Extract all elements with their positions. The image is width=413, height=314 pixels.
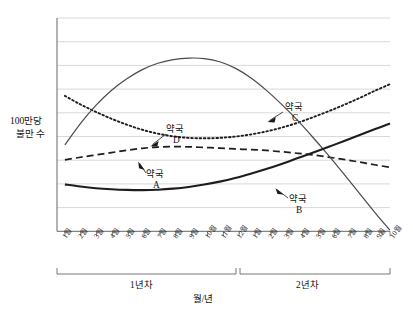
annotation-pharmacy-b-line1: 약국 <box>289 193 307 204</box>
chart-container: 1월 2월 3월 4월 5월 6월 7월 8월 9월 10월 11월 12월 1… <box>0 0 413 314</box>
y-axis-label-line2: 불만 수 <box>16 128 45 139</box>
annotation-pharmacy-c-line1: 약국 <box>285 101 303 112</box>
annotation-pharmacy-d-line2: D <box>173 135 180 145</box>
bracket-year-1 <box>57 268 236 274</box>
annotation-pharmacy-c-line2: C <box>292 113 298 123</box>
x-tick-label: 10월 <box>388 223 404 240</box>
y-axis-label: 100만당 불만 수 <box>10 115 45 139</box>
group-label-year-2: 2년차 <box>296 279 319 290</box>
y-axis-label-line1: 100만당 <box>10 115 42 126</box>
bracket-year-2 <box>240 268 390 274</box>
year-brackets <box>57 268 390 274</box>
annotation-pharmacy-b-line2: B <box>296 205 302 215</box>
plot-background <box>57 18 390 231</box>
x-axis-title: 월/년 <box>193 293 214 304</box>
annotation-pharmacy-a-line2: A <box>153 180 160 190</box>
group-label-year-1: 1년차 <box>130 279 153 290</box>
annotation-pharmacy-a-line1: 약국 <box>146 168 164 179</box>
annotation-pharmacy-d-line1: 약국 <box>166 123 184 134</box>
complaints-line-chart: 1월 2월 3월 4월 5월 6월 7월 8월 9월 10월 11월 12월 1… <box>0 0 413 314</box>
